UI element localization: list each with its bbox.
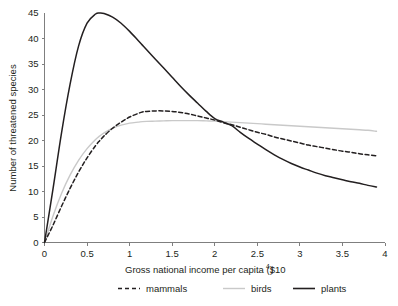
series-line-birds bbox=[45, 121, 377, 243]
y-tick-label: 40 bbox=[28, 33, 39, 44]
legend-label-plants: plants bbox=[321, 283, 347, 294]
x-tick-label: 2.5 bbox=[251, 248, 264, 259]
x-axis-title-tail: ) bbox=[270, 264, 273, 275]
y-tick-label: 45 bbox=[28, 7, 39, 18]
y-axis-ticks: 051015202530354045 bbox=[28, 7, 45, 248]
chart-figure: 051015202530354045 00.511.522.533.54 Num… bbox=[0, 0, 398, 306]
threatened-species-line-chart: 051015202530354045 00.511.522.533.54 Num… bbox=[0, 0, 398, 306]
chart-legend: mammalsbirdsplants bbox=[118, 283, 347, 294]
x-tick-label: 0 bbox=[42, 248, 47, 259]
x-axis-title: Gross national income per capita ($10 bbox=[125, 264, 286, 275]
x-axis-ticks: 00.511.522.533.54 bbox=[42, 243, 388, 259]
y-tick-label: 30 bbox=[28, 84, 39, 95]
y-tick-label: 5 bbox=[33, 211, 38, 222]
x-tick-label: 0.5 bbox=[80, 248, 93, 259]
legend-label-birds: birds bbox=[251, 283, 272, 294]
x-tick-label: 1 bbox=[127, 248, 132, 259]
x-tick-label: 4 bbox=[382, 248, 387, 259]
y-axis-title: Number of threatened species bbox=[7, 64, 18, 192]
y-tick-label: 0 bbox=[33, 237, 38, 248]
legend-label-mammals: mammals bbox=[146, 283, 187, 294]
y-tick-label: 10 bbox=[28, 186, 39, 197]
y-tick-label: 35 bbox=[28, 58, 39, 69]
y-tick-label: 20 bbox=[28, 135, 39, 146]
x-tick-label: 2 bbox=[212, 248, 217, 259]
y-tick-label: 15 bbox=[28, 160, 39, 171]
series-group bbox=[45, 13, 377, 243]
x-tick-label: 1.5 bbox=[166, 248, 179, 259]
x-axis-title-group: Gross national income per capita ($10 4 … bbox=[125, 263, 286, 275]
y-tick-label: 25 bbox=[28, 109, 39, 120]
x-tick-label: 3.5 bbox=[336, 248, 349, 259]
x-tick-label: 3 bbox=[297, 248, 302, 259]
